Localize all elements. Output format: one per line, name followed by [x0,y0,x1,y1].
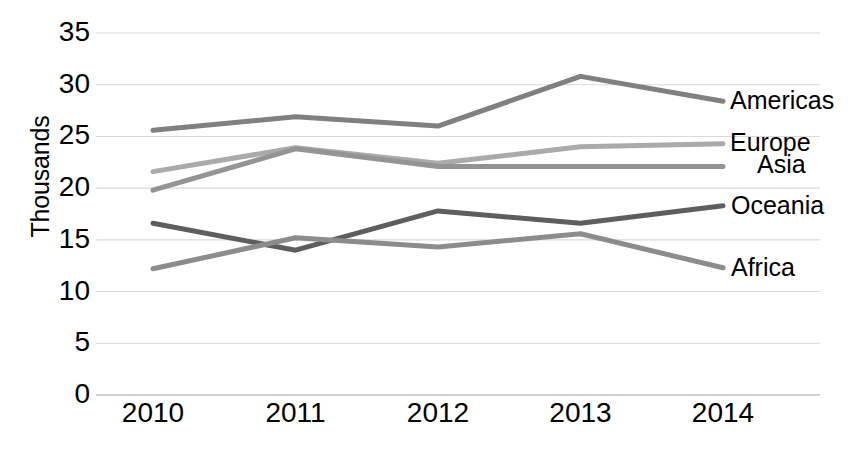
series-label-africa: Africa [731,255,795,280]
series-label-americas: Americas [730,88,834,113]
x-tick-label: 2014 [668,398,778,428]
line-chart: Thousands 05101520253035 201020112012201… [0,0,848,449]
x-tick-label: 2012 [383,398,493,428]
plot-area [0,0,848,449]
series-line-oceania [153,206,723,251]
x-tick-label: 2013 [526,398,636,428]
series-label-asia: Asia [757,152,806,177]
x-tick-label: 2011 [241,398,351,428]
series-label-oceania: Oceania [731,193,824,218]
x-tick-label: 2010 [98,398,208,428]
